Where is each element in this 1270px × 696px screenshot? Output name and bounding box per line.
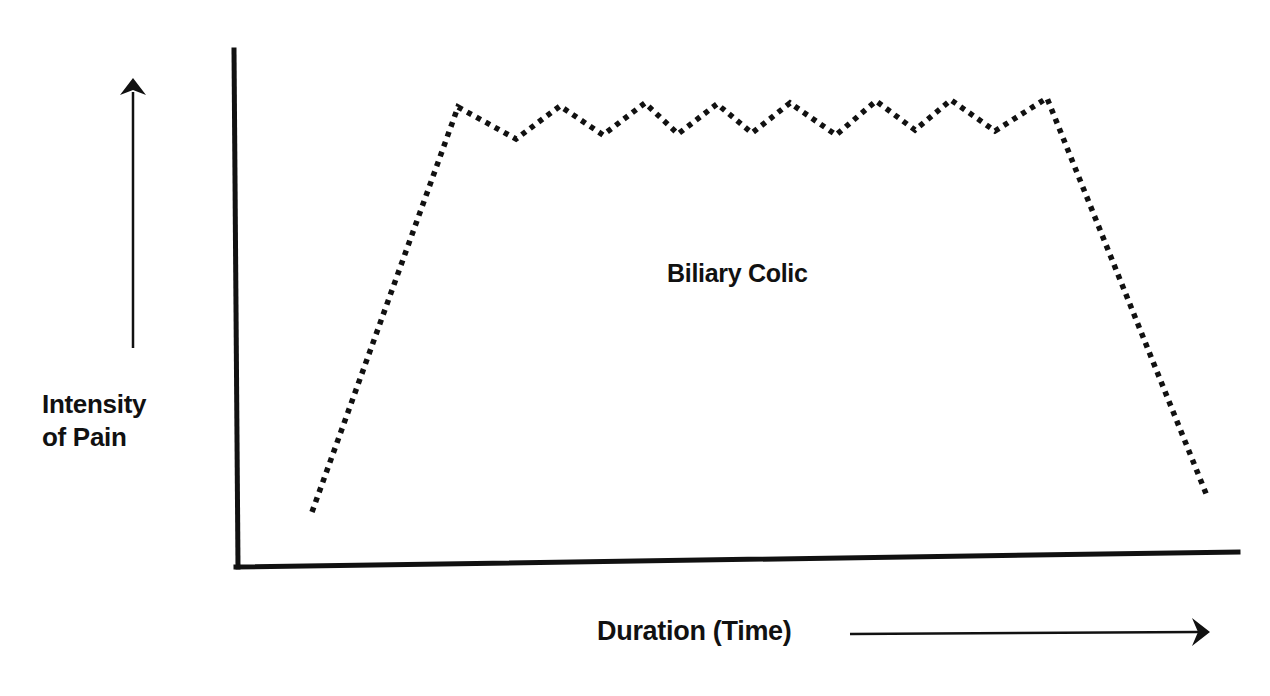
arrow-up-icon: [120, 78, 146, 348]
arrow-right-icon: [850, 618, 1210, 646]
curve-annotation: Biliary Colic: [667, 257, 808, 289]
diagram-canvas: [0, 0, 1270, 696]
x-axis: [236, 552, 1238, 567]
pain-intensity-diagram: Intensity of Pain Biliary Colic Duration…: [0, 0, 1270, 696]
y-axis-label-line1: Intensity: [42, 388, 146, 421]
y-axis-label-line2: of Pain: [42, 421, 146, 454]
pain-curve: [312, 98, 1207, 512]
x-axis-label: Duration (Time): [597, 614, 792, 648]
y-axis: [234, 50, 238, 567]
y-axis-label: Intensity of Pain: [42, 388, 146, 454]
